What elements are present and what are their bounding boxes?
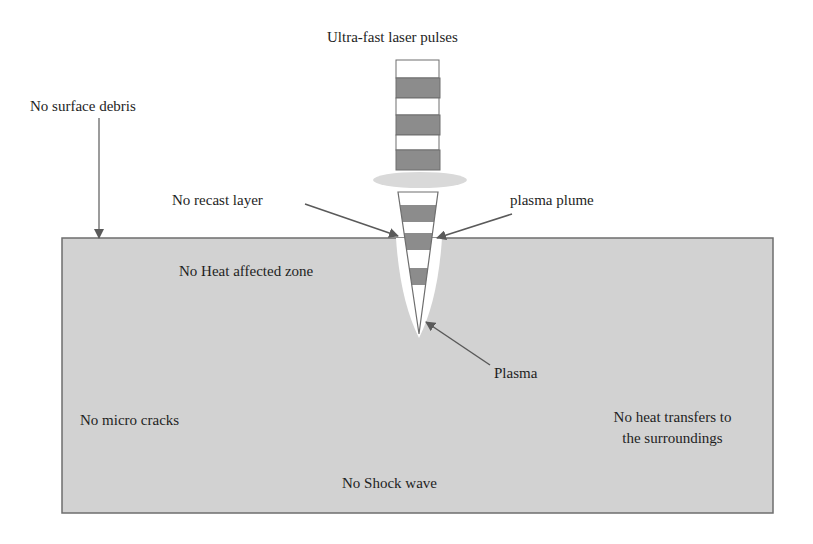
- label-no-recast-layer: No recast layer: [172, 191, 263, 209]
- pulse-band: [396, 60, 439, 78]
- pulse-band: [396, 150, 440, 170]
- label-no-surface-debris: No surface debris: [30, 97, 136, 115]
- label-plasma-plume: plasma plume: [510, 191, 594, 209]
- label-plasma: Plasma: [494, 364, 537, 382]
- label-no-shock-wave: No Shock wave: [342, 474, 437, 492]
- pulse-band: [396, 78, 440, 98]
- label-no-heat-transfers: No heat transfers to the surroundings: [585, 408, 760, 447]
- label-no-micro-cracks: No micro cracks: [80, 411, 179, 429]
- pulse-band: [396, 135, 439, 150]
- label-no-heat-transfers-line2: the surroundings: [585, 429, 760, 447]
- pulse-band: [396, 115, 440, 135]
- label-no-heat-affected-zone: No Heat affected zone: [179, 262, 313, 280]
- label-no-heat-transfers-line1: No heat transfers to: [585, 408, 760, 426]
- plasma-plume-arrow: [437, 214, 512, 238]
- plasma-plume-ellipse: [373, 172, 467, 188]
- laser-ablation-diagram: [0, 0, 813, 544]
- pulse-band: [396, 98, 439, 115]
- label-laser-pulses: Ultra-fast laser pulses: [327, 28, 458, 46]
- recast-layer-arrow: [305, 204, 398, 236]
- laser-pulse-train: [396, 60, 440, 170]
